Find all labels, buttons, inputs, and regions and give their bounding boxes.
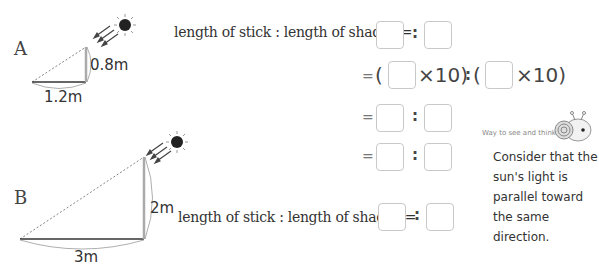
figure-a-diagram — [0, 0, 180, 110]
answer-box-a1-stick[interactable] — [376, 21, 404, 49]
answer-box-a4-shadow[interactable] — [424, 143, 452, 171]
answer-box-b-stick[interactable] — [378, 203, 406, 231]
tip-title: Way to see and think — [482, 129, 556, 137]
answer-box-a2-stick[interactable] — [388, 61, 416, 89]
colon: : — [412, 146, 418, 164]
open-paren: ( — [473, 63, 481, 87]
equals-sign: = — [362, 68, 374, 84]
answer-box-a4-stick[interactable] — [376, 143, 404, 171]
tip-line: parallel toward — [493, 187, 598, 207]
answer-box-b-shadow[interactable] — [426, 203, 454, 231]
light-arrows-icon — [94, 26, 118, 46]
light-arrows-icon — [147, 143, 171, 163]
colon: : — [414, 206, 420, 224]
sun-icon — [166, 131, 188, 153]
times-ten: ×10) — [418, 63, 468, 87]
tip-line: sun's light is — [493, 167, 598, 187]
equals-sign: = — [362, 109, 374, 125]
answer-box-a3-stick[interactable] — [376, 104, 404, 132]
sun-icon — [114, 14, 136, 36]
times-ten: ×10) — [516, 63, 566, 87]
figure-a-stick-height: 0.8m — [90, 56, 128, 74]
snail-mascot-icon — [550, 110, 596, 144]
tip-body: Consider that the sun's light is paralle… — [493, 147, 598, 247]
colon: : — [465, 66, 471, 84]
tip-line: direction. — [493, 227, 598, 247]
tip-line: the same — [493, 207, 598, 227]
figure-b-shadow-length: 3m — [74, 248, 98, 266]
open-paren: ( — [375, 63, 383, 87]
answer-box-a2-shadow[interactable] — [485, 61, 513, 89]
answer-box-a1-shadow[interactable] — [424, 21, 452, 49]
figure-a-shadow-length: 1.2m — [44, 88, 82, 106]
figure-b-stick-height: 2m — [150, 199, 174, 217]
colon: : — [412, 24, 418, 42]
tip-line: Consider that the — [493, 147, 598, 167]
equals-sign: = — [362, 148, 374, 164]
answer-box-a3-shadow[interactable] — [424, 104, 452, 132]
colon: : — [412, 107, 418, 125]
